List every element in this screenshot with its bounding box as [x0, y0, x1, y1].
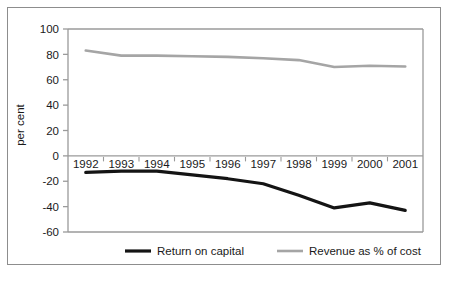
x-axis-tick-label: 1992	[73, 158, 99, 170]
y-axis-tick-label: 20	[46, 125, 59, 137]
legend-label-1: Return on capital	[157, 245, 244, 257]
legend-label-2: Revenue as % of cost	[309, 245, 422, 257]
y-axis-tick-label: 80	[46, 49, 59, 61]
y-axis-tick-label: -40	[42, 201, 59, 213]
x-axis-tick-label: 1994	[144, 158, 170, 170]
y-axis-tick-label: -20	[42, 175, 59, 187]
x-axis-tick-label: 2001	[392, 158, 418, 170]
x-axis-tick-label: 1999	[321, 158, 347, 170]
series-line-2	[86, 51, 406, 67]
x-axis-tick-label: 1997	[250, 158, 276, 170]
chart-figure: 100806040200-20-40-60per cent19921993199…	[0, 0, 461, 283]
x-axis-tick-label: 1995	[179, 158, 205, 170]
x-axis-tick-label: 1996	[215, 158, 241, 170]
x-axis-tick-label: 1993	[108, 158, 134, 170]
y-axis-tick-label: 40	[46, 99, 59, 111]
y-axis-title: per cent	[14, 103, 26, 145]
y-axis-tick-label: 100	[40, 23, 59, 35]
x-axis-tick-label: 2000	[357, 158, 383, 170]
line-chart: 100806040200-20-40-60per cent19921993199…	[0, 0, 461, 283]
x-axis-tick-label: 1998	[286, 158, 312, 170]
y-axis-tick-label: 60	[46, 74, 59, 86]
y-axis-tick-label: 0	[53, 150, 59, 162]
series-line-1	[86, 171, 406, 210]
y-axis-tick-label: -60	[42, 226, 59, 238]
